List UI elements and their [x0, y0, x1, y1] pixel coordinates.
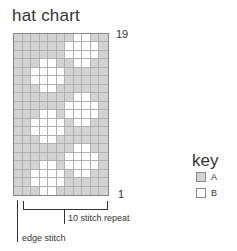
- chart-cell: [48, 119, 57, 127]
- chart-cell: [14, 51, 23, 59]
- chart-cell: [57, 51, 66, 59]
- chart-cell: [99, 68, 108, 76]
- chart-cell: [91, 102, 100, 110]
- chart-cell: [57, 59, 66, 67]
- chart-cell: [31, 153, 40, 161]
- chart-cell: [99, 85, 108, 93]
- key-label-b: B: [211, 188, 217, 198]
- chart-cell: [31, 76, 40, 84]
- chart-cell: [91, 136, 100, 144]
- chart-cell: [23, 161, 32, 169]
- chart-cell: [99, 153, 108, 161]
- chart-cell: [14, 85, 23, 93]
- chart-cell: [57, 136, 66, 144]
- chart-cell: [74, 68, 83, 76]
- chart-cell: [48, 102, 57, 110]
- chart-cell: [14, 187, 23, 195]
- chart-cell: [82, 170, 91, 178]
- chart-cell: [91, 153, 100, 161]
- chart-cell: [57, 42, 66, 50]
- chart-cell: [57, 102, 66, 110]
- chart-cell: [31, 119, 40, 127]
- chart-cell: [57, 76, 66, 84]
- chart-cell: [14, 144, 23, 152]
- chart-cell: [48, 127, 57, 135]
- chart-cell: [82, 187, 91, 195]
- chart-cell: [99, 76, 108, 84]
- chart-cell: [23, 153, 32, 161]
- chart-cell: [65, 51, 74, 59]
- chart-cell: [91, 170, 100, 178]
- chart-cell: [82, 178, 91, 186]
- repeat-label: 10 stitch repeat: [68, 213, 130, 223]
- chart-cell: [65, 85, 74, 93]
- chart-cell: [74, 161, 83, 169]
- chart-cell: [57, 127, 66, 135]
- chart-cell: [48, 68, 57, 76]
- chart-cell: [23, 59, 32, 67]
- chart-cell: [14, 127, 23, 135]
- chart-cell: [74, 102, 83, 110]
- chart-cell: [57, 68, 66, 76]
- chart-cell: [57, 153, 66, 161]
- chart-cell: [99, 119, 108, 127]
- chart-cell: [82, 110, 91, 118]
- chart-cell: [82, 119, 91, 127]
- chart-cell: [31, 68, 40, 76]
- chart-cell: [48, 187, 57, 195]
- chart-cell: [65, 136, 74, 144]
- chart-cell: [65, 144, 74, 152]
- chart-cell: [40, 110, 49, 118]
- chart-cell: [65, 187, 74, 195]
- chart-cell: [99, 187, 108, 195]
- chart-cell: [23, 136, 32, 144]
- chart-cell: [65, 161, 74, 169]
- chart-cell: [91, 59, 100, 67]
- chart-cell: [40, 119, 49, 127]
- chart-cell: [57, 178, 66, 186]
- chart-cell: [31, 102, 40, 110]
- chart-cell: [99, 170, 108, 178]
- chart-cell: [31, 51, 40, 59]
- chart-cell: [48, 51, 57, 59]
- knitting-chart-grid: [13, 33, 109, 196]
- chart-cell: [91, 76, 100, 84]
- chart-cell: [65, 110, 74, 118]
- chart-cell: [57, 34, 66, 42]
- chart-cell: [99, 42, 108, 50]
- chart-cell: [23, 110, 32, 118]
- chart-cell: [65, 68, 74, 76]
- chart-cell: [99, 136, 108, 144]
- chart-cell: [91, 51, 100, 59]
- chart-cell: [74, 85, 83, 93]
- row-label-top: 19: [116, 28, 128, 40]
- chart-cell: [82, 102, 91, 110]
- chart-cell: [40, 102, 49, 110]
- chart-cell: [74, 136, 83, 144]
- chart-cell: [82, 76, 91, 84]
- chart-cell: [65, 42, 74, 50]
- chart-cell: [40, 59, 49, 67]
- chart-cell: [40, 161, 49, 169]
- chart-cell: [40, 51, 49, 59]
- chart-cell: [40, 170, 49, 178]
- edge-stitch-label: edge stitch: [22, 233, 66, 243]
- chart-cell: [23, 170, 32, 178]
- chart-cell: [48, 136, 57, 144]
- chart-cell: [14, 119, 23, 127]
- chart-cell: [48, 42, 57, 50]
- chart-cell: [65, 102, 74, 110]
- chart-cell: [57, 119, 66, 127]
- chart-cell: [99, 34, 108, 42]
- chart-cell: [14, 153, 23, 161]
- chart-cell: [23, 187, 32, 195]
- chart-cell: [14, 93, 23, 101]
- chart-cell: [91, 93, 100, 101]
- chart-cell: [57, 161, 66, 169]
- key-swatch-b: [196, 188, 206, 198]
- chart-cell: [31, 170, 40, 178]
- chart-cell: [74, 76, 83, 84]
- chart-cell: [40, 93, 49, 101]
- chart-cell: [48, 59, 57, 67]
- chart-cell: [40, 127, 49, 135]
